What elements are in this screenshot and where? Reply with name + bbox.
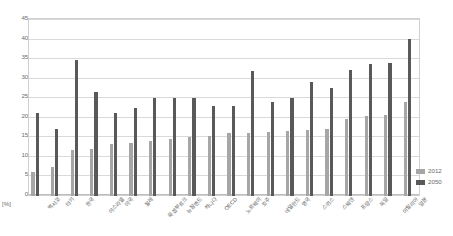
- bar-group: [303, 19, 323, 196]
- bar-2050-네덜란드: [271, 102, 274, 196]
- y-axis-unit-label: [%]: [2, 201, 11, 207]
- bar-group: [264, 19, 284, 196]
- bar-2012-이스라엘: [90, 149, 93, 196]
- bar-group: [107, 19, 127, 196]
- bar-2050-노르웨이: [232, 106, 235, 196]
- bar-group: [29, 19, 49, 196]
- x-axis-tick-label: 일본: [418, 197, 429, 208]
- x-axis-tick-label: 노르웨이: [245, 197, 263, 215]
- bar-2050-OECD: [212, 106, 215, 196]
- x-axis-tick-label: 칠레: [144, 197, 155, 208]
- bar-2012-미국: [110, 144, 113, 196]
- x-axis-tick-label: 캐나다: [204, 197, 218, 211]
- bar-2012-한국: [71, 150, 74, 196]
- bar-group: [323, 19, 343, 196]
- bar-2012-영국: [286, 131, 289, 196]
- bar-group: [343, 19, 363, 196]
- x-axis-tick-label: 터키: [65, 197, 76, 208]
- bar-2050-칠레: [134, 108, 137, 197]
- bar-group: [147, 19, 167, 196]
- bar-group: [362, 19, 382, 196]
- bar-2012-OECD: [208, 136, 211, 196]
- x-axis-tick-label: OECD: [224, 197, 239, 212]
- bar-2012-캐나다: [188, 137, 191, 196]
- bar-2050-뉴질랜드: [173, 98, 176, 196]
- x-axis-tick-label: 이스라엘: [107, 197, 125, 215]
- bar-2012-일본: [404, 102, 407, 196]
- legend-item-2012: 2012: [416, 168, 453, 175]
- y-axis-tick-35: 35: [6, 54, 28, 60]
- bar-2050-멕시코: [36, 113, 39, 196]
- bar-group: [88, 19, 108, 196]
- bar-chart: 051015202530354045 [%] 멕시코터키한국이스라엘미국칠레룩셈…: [0, 0, 453, 236]
- bar-2050-룩셈부르크: [153, 98, 156, 196]
- legend-swatch-2012: [416, 169, 425, 174]
- x-axis-tick-label: 멕시코: [47, 197, 61, 211]
- bar-2050-캐나다: [192, 98, 195, 196]
- x-axis-tick-label: 영국: [301, 197, 312, 208]
- bar-group: [49, 19, 69, 196]
- x-axis-tick-label: 미국: [124, 197, 135, 208]
- y-axis-tick-10: 10: [6, 152, 28, 158]
- bar-2012-이탈리아: [384, 115, 387, 196]
- y-axis-tick-25: 25: [6, 93, 28, 99]
- x-axis-tick-labels: 멕시코터키한국이스라엘미국칠레룩셈부르크뉴질랜드캐나다OECD노르웨이호주네덜란…: [29, 197, 419, 236]
- bar-2012-호주: [247, 133, 250, 196]
- x-axis-tick-label: 한국: [85, 197, 96, 208]
- bar-2050-이탈리아: [388, 63, 391, 196]
- bar-2012-뉴질랜드: [169, 139, 172, 196]
- bar-2050-독일: [369, 64, 372, 196]
- y-axis-tick-0: 0: [6, 191, 28, 197]
- y-axis-tick-15: 15: [6, 132, 28, 138]
- bar-2012-독일: [365, 116, 368, 196]
- y-axis-tick-20: 20: [6, 113, 28, 119]
- legend-swatch-2050: [416, 180, 425, 185]
- bar-group: [166, 19, 186, 196]
- bar-2050-영국: [290, 98, 293, 196]
- bar-2050-터키: [55, 129, 58, 196]
- bar-2012-스웨덴: [325, 129, 328, 196]
- y-axis-tick-45: 45: [6, 15, 28, 21]
- bar-group: [127, 19, 147, 196]
- bar-2050-이스라엘: [94, 92, 97, 196]
- legend-item-2050: 2050: [416, 179, 453, 186]
- bar-2012-네덜란드: [267, 132, 270, 196]
- bar-2050-한국: [75, 60, 78, 196]
- x-axis-tick-label: 스웨덴: [341, 197, 355, 211]
- bar-group: [284, 19, 304, 196]
- bar-2012-룩셈부르크: [149, 141, 152, 196]
- legend-label-2012: 2012: [428, 168, 442, 174]
- x-axis-tick-label: 이탈리아: [401, 197, 419, 215]
- bar-2012-칠레: [129, 143, 132, 196]
- bar-series-container: [29, 19, 419, 196]
- legend-label-2050: 2050: [428, 179, 442, 185]
- y-axis-tick-5: 5: [6, 171, 28, 177]
- bar-2050-미국: [114, 113, 117, 196]
- bar-2050-프랑스: [349, 70, 352, 196]
- bar-2012-프랑스: [345, 119, 348, 196]
- bar-2012-스위스: [306, 130, 309, 196]
- x-axis-tick-label: 네덜란드: [284, 197, 302, 215]
- bar-group: [245, 19, 265, 196]
- bar-group: [225, 19, 245, 196]
- bar-group: [186, 19, 206, 196]
- x-axis-tick-label: 호주: [261, 197, 272, 208]
- y-axis-tick-30: 30: [6, 74, 28, 80]
- chart-legend: 20122050: [416, 168, 453, 190]
- x-axis-tick-label: 프랑스: [361, 197, 375, 211]
- bar-group: [382, 19, 402, 196]
- bar-2012-멕시코: [31, 172, 34, 196]
- y-axis-tick-40: 40: [6, 35, 28, 41]
- bar-group: [68, 19, 88, 196]
- x-axis-tick-label: 스위스: [322, 197, 336, 211]
- bar-2050-호주: [251, 71, 254, 196]
- x-axis-tick-label: 독일: [379, 197, 390, 208]
- bar-group: [205, 19, 225, 196]
- bar-2050-스위스: [310, 82, 313, 196]
- bar-2050-스웨덴: [330, 88, 333, 196]
- bar-2012-터키: [51, 167, 54, 196]
- bar-2012-노르웨이: [227, 133, 230, 196]
- bar-2050-일본: [408, 39, 411, 196]
